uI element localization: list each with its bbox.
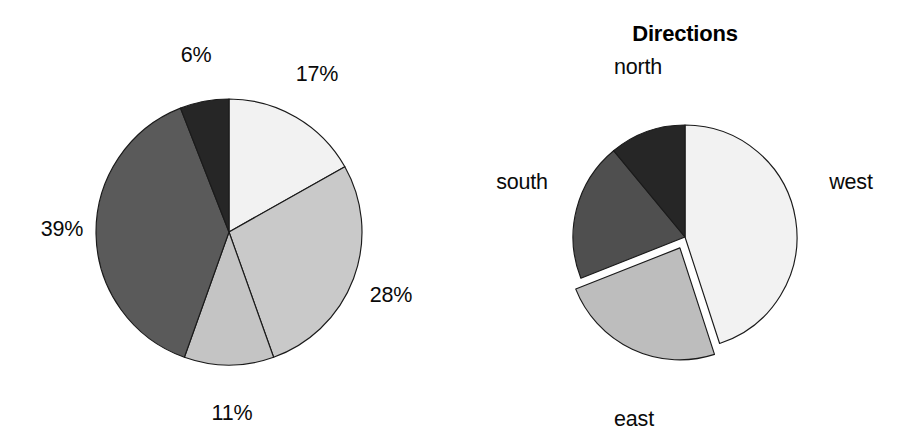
left-label-28pct: 28% xyxy=(370,285,412,307)
pie-slice-west xyxy=(685,125,797,344)
figure-canvas: 6% 17% 28% 11% 39% Directions north west… xyxy=(0,0,904,448)
left-label-17pct: 17% xyxy=(296,64,338,86)
left-label-39pct: 39% xyxy=(41,219,83,241)
left-label-6pct: 6% xyxy=(181,45,212,67)
right-label-west: west xyxy=(829,172,872,194)
right-pie-chart: Directions north west south east xyxy=(452,0,904,448)
right-label-east: east xyxy=(614,409,654,431)
left-pie-chart: 6% 17% 28% 11% 39% xyxy=(0,0,452,448)
left-label-11pct: 11% xyxy=(212,403,253,425)
right-label-south: south xyxy=(496,172,548,194)
right-pie-graphic xyxy=(452,0,904,448)
right-label-north: north xyxy=(614,57,662,79)
